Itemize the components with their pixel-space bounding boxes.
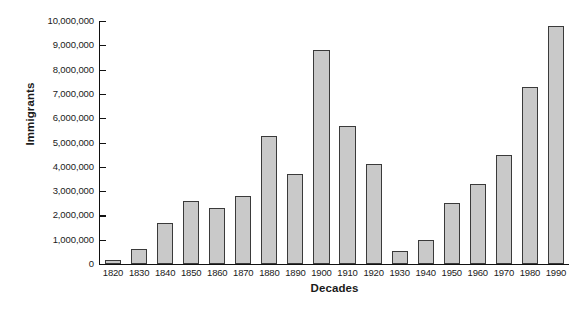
- cut-off-caption: [40, 300, 460, 310]
- y-tick-label: 9,000,000: [24, 40, 94, 50]
- bar-1960: [470, 184, 486, 264]
- bar-1870: [235, 196, 251, 264]
- y-tick-mark: [99, 167, 106, 168]
- bar-1880: [261, 136, 277, 264]
- bar-1970: [496, 155, 512, 264]
- x-tick-label: 1840: [152, 267, 178, 279]
- y-tick-mark: [99, 94, 106, 95]
- bar-1840: [157, 223, 173, 264]
- x-tick-label: 1950: [439, 267, 465, 279]
- y-tick-mark: [99, 118, 106, 119]
- bar-1890: [287, 174, 303, 264]
- bar-1910: [339, 126, 355, 265]
- x-tick-label: 1940: [413, 267, 439, 279]
- x-tick-label: 1960: [465, 267, 491, 279]
- x-tick-label: 1880: [256, 267, 282, 279]
- bar-1950: [444, 203, 460, 264]
- bar-1920: [366, 164, 382, 264]
- bar-1990: [548, 26, 564, 264]
- x-tick-label: 1920: [361, 267, 387, 279]
- y-tick-label: 6,000,000: [24, 113, 94, 123]
- bar-1980: [522, 87, 538, 264]
- x-axis-line: [99, 264, 569, 265]
- x-tick-label: 1830: [126, 267, 152, 279]
- y-tick-mark: [99, 240, 106, 241]
- x-tick-label: 1850: [178, 267, 204, 279]
- x-tick-label: 1860: [204, 267, 230, 279]
- y-tick-label: 8,000,000: [24, 65, 94, 75]
- bar-1940: [418, 240, 434, 264]
- x-tick-label: 1870: [230, 267, 256, 279]
- x-tick-label: 1990: [543, 267, 569, 279]
- x-tick-label: 1970: [491, 267, 517, 279]
- plot-area: [100, 21, 569, 264]
- bar-1850: [183, 201, 199, 264]
- x-tick-label: 1980: [517, 267, 543, 279]
- x-tick-label: 1820: [100, 267, 126, 279]
- y-tick-label: 3,000,000: [24, 186, 94, 196]
- y-tick-label: 5,000,000: [24, 138, 94, 148]
- bar-1900: [313, 50, 329, 264]
- y-tick-mark: [99, 215, 106, 216]
- x-tick-label: 1900: [308, 267, 334, 279]
- y-axis-tick-labels: 01,000,0002,000,0003,000,0004,000,0005,0…: [24, 0, 94, 312]
- y-tick-label: 2,000,000: [24, 210, 94, 220]
- x-tick-label: 1930: [387, 267, 413, 279]
- y-tick-mark: [99, 191, 106, 192]
- y-tick-label: 7,000,000: [24, 89, 94, 99]
- y-tick-mark: [99, 143, 106, 144]
- immigrants-by-decade-bar-chart: Immigrants 01,000,0002,000,0003,000,0004…: [0, 0, 586, 312]
- x-axis-tick-labels: 1820183018401850186018701880189019001910…: [100, 267, 569, 283]
- bar-1930: [392, 251, 408, 264]
- y-tick-mark: [99, 70, 106, 71]
- bar-1820: [105, 260, 121, 264]
- x-axis-title: Decades: [100, 282, 569, 294]
- y-tick-mark: [99, 21, 106, 22]
- x-tick-label: 1910: [335, 267, 361, 279]
- x-tick-label: 1890: [282, 267, 308, 279]
- bar-1830: [131, 249, 147, 264]
- y-tick-mark: [99, 45, 106, 46]
- y-tick-label: 10,000,000: [24, 16, 94, 26]
- y-tick-label: 1,000,000: [24, 235, 94, 245]
- y-tick-label: 4,000,000: [24, 162, 94, 172]
- y-tick-label: 0: [24, 259, 94, 269]
- bar-1860: [209, 208, 225, 264]
